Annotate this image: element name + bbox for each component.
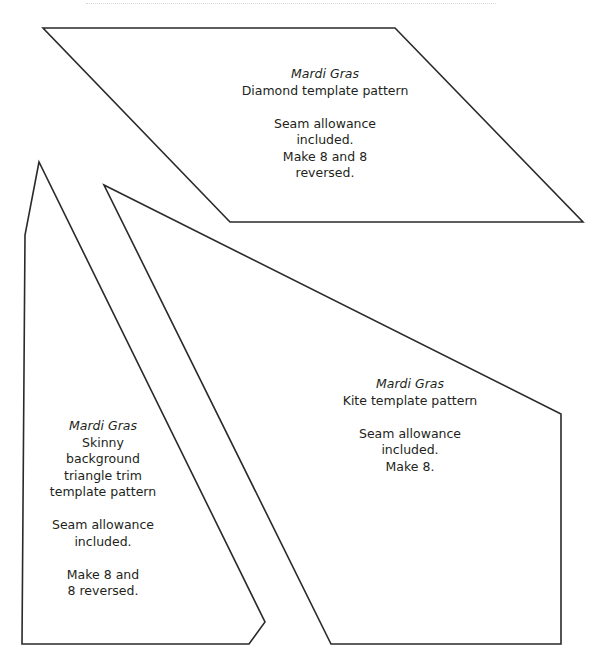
diamond-label-seam: Seam allowance <box>235 116 415 133</box>
skinny-label-included: included. <box>33 534 173 551</box>
spacer <box>33 550 173 567</box>
skinny-label-line3: triangle trim <box>33 468 173 485</box>
kite-label-included: included. <box>330 442 490 459</box>
skinny-label-line4: template pattern <box>33 484 173 501</box>
spacer <box>330 409 490 426</box>
kite-label-make: Make 8. <box>330 459 490 476</box>
skinny-label-seam: Seam allowance <box>33 517 173 534</box>
skinny-label-reversed: 8 reversed. <box>33 583 173 600</box>
kite-label-title: Mardi Gras <box>330 376 490 393</box>
skinny-label-title: Mardi Gras <box>33 418 173 435</box>
spacer <box>235 99 415 116</box>
spacer <box>33 501 173 518</box>
diamond-label-make: Make 8 and 8 <box>235 149 415 166</box>
diamond-label-subtitle: Diamond template pattern <box>235 83 415 100</box>
skinny-triangle-template-label: Mardi Gras Skinny background triangle tr… <box>33 418 173 600</box>
kite-label-subtitle: Kite template pattern <box>330 393 490 410</box>
kite-label-seam: Seam allowance <box>330 426 490 443</box>
kite-template-label: Mardi Gras Kite template pattern Seam al… <box>330 376 490 475</box>
diamond-label-included: included. <box>235 132 415 149</box>
skinny-label-line1: Skinny <box>33 435 173 452</box>
diamond-template-label: Mardi Gras Diamond template pattern Seam… <box>235 66 415 182</box>
diamond-label-reversed: reversed. <box>235 165 415 182</box>
diamond-label-title: Mardi Gras <box>235 66 415 83</box>
skinny-label-line2: background <box>33 451 173 468</box>
skinny-label-make: Make 8 and <box>33 567 173 584</box>
